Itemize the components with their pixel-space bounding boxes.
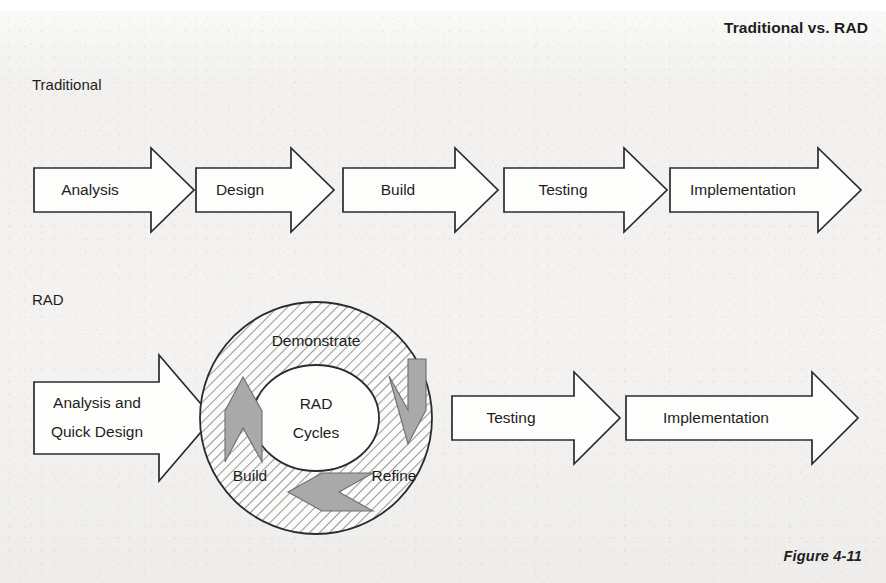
traditional-sequence: Analysis Design Build Testing Implementa… [34, 148, 861, 232]
stage-arrow-build-shape [343, 148, 498, 232]
stage-arrow-analysis-label: Analysis [61, 181, 119, 198]
stage-arrow-implementation[interactable]: Implementation [670, 148, 861, 232]
rad-stage-arrow-analysis-quick-design-shape [34, 355, 213, 481]
rad-stage-arrow-testing-label: Testing [486, 409, 535, 426]
diagram-artwork: Analysis Design Build Testing Implementa… [0, 0, 886, 583]
stage-arrow-testing-label: Testing [538, 181, 587, 198]
rad-stage-arrow-implementation-label: Implementation [663, 409, 769, 426]
stage-arrow-build-label: Build [381, 181, 415, 198]
rad-sequence: Analysis and Quick Design Demonstrate Bu… [34, 302, 858, 534]
rad-cycle-group[interactable]: Demonstrate Build Refine RAD Cycles [200, 302, 432, 534]
stage-arrow-analysis[interactable]: Analysis [34, 148, 194, 232]
cycle-center-label-line1: RAD [300, 395, 333, 412]
stage-arrow-testing[interactable]: Testing [504, 148, 667, 232]
rad-entry-label-line2: Quick Design [51, 423, 143, 440]
cycle-center-label-line2: Cycles [293, 424, 340, 441]
rad-entry-label-line1: Analysis and [53, 394, 141, 411]
stage-arrow-implementation-label: Implementation [690, 181, 796, 198]
rad-stage-arrow-analysis-quick-design[interactable]: Analysis and Quick Design [34, 355, 213, 481]
cycle-step-label-build: Build [233, 467, 267, 484]
rad-cycle-inner-circle [253, 365, 379, 471]
cycle-step-label-refine: Refine [372, 467, 417, 484]
stage-arrow-design-label: Design [216, 181, 264, 198]
figure-container: Traditional vs. RAD Traditional RAD Figu… [0, 0, 886, 583]
cycle-step-label-demonstrate: Demonstrate [272, 332, 361, 349]
stage-arrow-design[interactable]: Design [196, 148, 334, 232]
stage-arrow-build[interactable]: Build [343, 148, 498, 232]
rad-stage-arrow-implementation[interactable]: Implementation [626, 372, 858, 464]
rad-stage-arrow-testing-shape [452, 372, 620, 464]
rad-stage-arrow-testing[interactable]: Testing [452, 372, 620, 464]
